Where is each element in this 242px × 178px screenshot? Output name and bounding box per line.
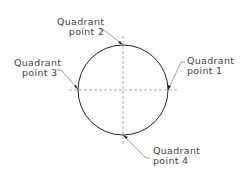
label-q3-line2: point 3 xyxy=(14,68,61,78)
label-quadrant-point-2: Quadrant point 2 xyxy=(57,17,104,37)
label-quadrant-point-4: Quadrant point 4 xyxy=(153,146,200,166)
label-quadrant-point-1: Quadrant point 1 xyxy=(187,56,234,76)
arrowhead-q1 xyxy=(168,85,171,90)
label-q2-line2: point 2 xyxy=(57,27,104,37)
arrowhead-q4 xyxy=(123,135,128,139)
leader-line-q1 xyxy=(169,62,185,88)
diagram-canvas xyxy=(0,0,242,178)
arrowhead-q3 xyxy=(74,85,78,90)
label-q1-line2: point 1 xyxy=(187,66,234,76)
label-quadrant-point-3: Quadrant point 3 xyxy=(14,58,61,78)
label-q4-line2: point 4 xyxy=(153,156,200,166)
leader-line-q4 xyxy=(124,136,150,158)
